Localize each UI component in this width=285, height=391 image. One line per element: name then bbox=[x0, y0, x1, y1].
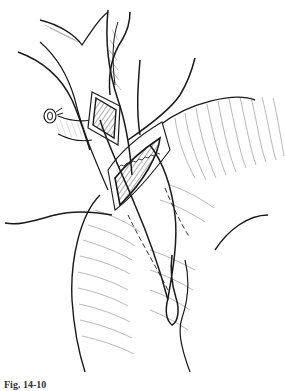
figure-caption: Fig. 14-10 bbox=[4, 379, 284, 391]
caption-label: Fig. 14-10 bbox=[4, 379, 46, 390]
surgical-illustration bbox=[0, 0, 285, 372]
